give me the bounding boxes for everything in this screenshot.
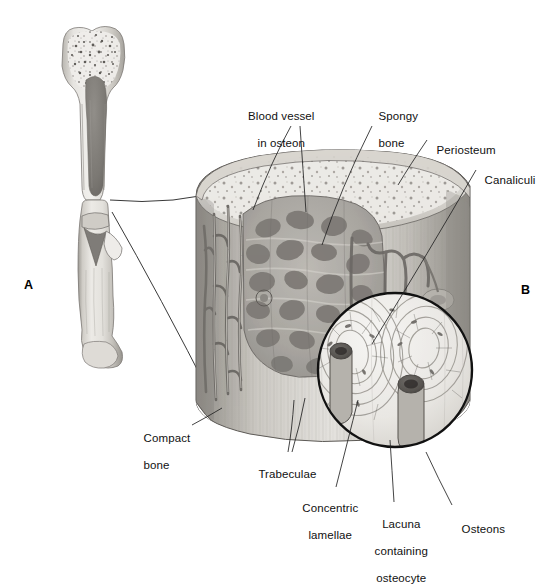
label-trabeculae: Trabeculae <box>252 454 332 481</box>
magnified-bone-cylinder <box>196 149 476 452</box>
label-blood-vessel-in-osteon: Blood vessel in osteon <box>232 96 324 150</box>
label-concentric-lamellae: Concentric lamellae <box>288 488 366 542</box>
cylinder-left-shading <box>196 199 214 420</box>
label-osteons: Osteons <box>455 509 525 536</box>
label-lacuna-containing-osteocyte: Lacuna containing osteocyte <box>362 504 434 585</box>
central-canal-right <box>398 375 424 452</box>
label-periosteum: Periosteum <box>430 130 520 157</box>
panel-marker-a: A <box>24 278 33 292</box>
medullary-cavity <box>86 76 107 196</box>
label-canaliculi: Canaliculi <box>478 160 558 187</box>
label-compact-bone: Compact bone <box>137 418 217 472</box>
transverse-cut-face <box>82 213 109 230</box>
central-canal-left <box>330 343 352 424</box>
panel-marker-b: B <box>521 283 530 297</box>
